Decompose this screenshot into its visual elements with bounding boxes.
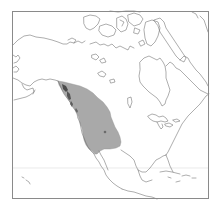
range-map <box>0 0 219 207</box>
map-canvas <box>0 0 219 207</box>
range-point-marker <box>104 131 107 134</box>
